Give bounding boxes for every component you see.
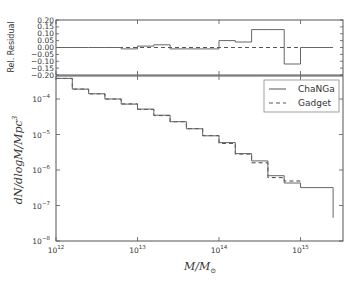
main-ylabel: dN/dlogM/Mpc3 [11, 115, 25, 204]
residual-panel: 0.200.150.100.050.00−0.05−0.10−0.15−0.20… [7, 16, 343, 80]
main-ylabel-text: dN/dlogM/Mpc [12, 120, 25, 204]
tick-label: 10−7 [32, 200, 50, 211]
tick-label: 1015 [292, 244, 309, 255]
tick-label: 10−4 [32, 93, 50, 104]
main-xlabel-sub: ⊙ [210, 267, 216, 275]
tick-label: 1012 [48, 244, 65, 255]
residual-ylabel: Rel. Residual [7, 21, 16, 72]
legend: ChaNGa Gadget [264, 80, 339, 112]
main-xlabel: M/M⊙ [183, 260, 216, 275]
svg-text:dN/dlogM/Mpc3: dN/dlogM/Mpc3 [11, 115, 25, 204]
tick-label: 10−8 [32, 235, 50, 246]
tick-label: 10−5 [32, 129, 50, 140]
mass-function-panel: 10−410−510−610−710−8 1012101310141015 Ch… [11, 76, 343, 275]
tick-label: 10−6 [32, 164, 50, 175]
legend-gadget-label: Gadget [298, 98, 331, 108]
tick-label: 1013 [129, 244, 146, 255]
tick-label: 1014 [211, 244, 228, 255]
figure: 0.200.150.100.050.00−0.05−0.10−0.15−0.20… [0, 0, 362, 282]
legend-changa-label: ChaNGa [298, 84, 335, 94]
tick-label: −0.20 [31, 71, 54, 80]
main-xlabel-text: M/M [183, 260, 211, 273]
